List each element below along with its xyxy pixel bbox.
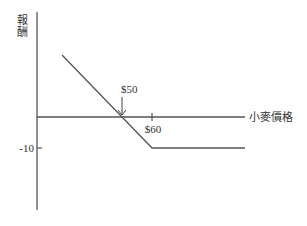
y-axis-label: 報酬: [17, 14, 28, 39]
payoff-chart: 報酬 小麥價格 $60 -10 $50: [0, 0, 307, 226]
annotation-label: $50: [121, 83, 138, 95]
annotation-arrow-icon: [118, 97, 126, 115]
x-axis-label: 小麥價格: [249, 110, 293, 124]
y-axis-label-char: 酬: [17, 26, 28, 39]
x-tick-label: $60: [145, 123, 162, 135]
y-tick-label: -10: [19, 142, 34, 154]
